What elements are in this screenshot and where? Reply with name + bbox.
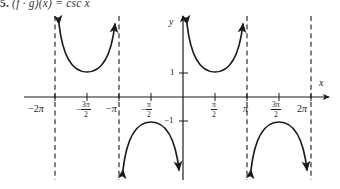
x-tick-label-neg3pi-over-2: −3π2 <box>76 101 91 118</box>
x-tick-label-neg2pi: −2π <box>28 104 44 114</box>
branch-negpi-zero <box>123 122 179 170</box>
x-axis-label: x <box>319 78 323 88</box>
y-tick-label-1: 1 <box>170 68 175 77</box>
cosecant-graph <box>0 0 340 189</box>
y-axis-label: y <box>169 17 173 27</box>
x-tick-label-negpi-over-2: −π2 <box>141 101 152 118</box>
branch-neg2pi-negpi <box>59 24 115 72</box>
x-tick-label-pi: π <box>243 104 248 114</box>
x-tick-label-2pi: 2π <box>297 104 307 114</box>
branch-zero-pi <box>187 24 243 72</box>
branch-pi-2pi <box>251 122 307 170</box>
y-tick-label-neg1: −1 <box>164 116 174 125</box>
x-tick-label-pi-over-2: π2 <box>211 101 217 118</box>
x-tick-label-negpi: −π <box>106 104 117 114</box>
x-tick-label-3pi-over-2: 3π2 <box>271 101 281 118</box>
